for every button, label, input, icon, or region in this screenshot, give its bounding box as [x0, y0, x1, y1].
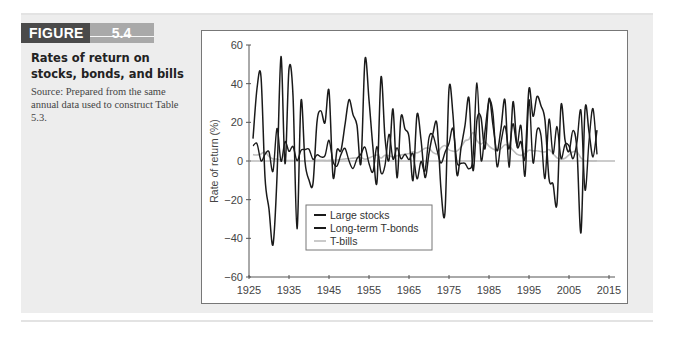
- y-tick-label: 60: [231, 39, 243, 51]
- y-tick-label: 40: [231, 78, 243, 90]
- legend-label: T-bills: [330, 235, 357, 247]
- x-tick-label: 1965: [397, 284, 421, 296]
- y-tick-label: −60: [224, 271, 243, 283]
- y-tick-label: −20: [224, 194, 243, 206]
- legend-label: Large stocks: [330, 209, 390, 221]
- x-tick-label: 1955: [357, 284, 381, 296]
- y-tick-label: −40: [224, 232, 243, 244]
- line-chart: −60−40−200204060192519351945195519651975…: [0, 0, 675, 341]
- y-tick-label: 20: [231, 116, 243, 128]
- x-tick-label: 1935: [277, 284, 301, 296]
- x-tick-label: 1945: [317, 284, 341, 296]
- y-axis-label: Rate of return (%): [208, 119, 220, 202]
- x-tick-label: 2015: [597, 284, 621, 296]
- legend-label: Long-term T-bonds: [330, 222, 419, 234]
- y-tick-label: 0: [237, 155, 243, 167]
- x-tick-label: 1975: [437, 284, 461, 296]
- x-tick-label: 1995: [517, 284, 541, 296]
- x-tick-label: 1925: [237, 284, 261, 296]
- x-tick-label: 2005: [557, 284, 581, 296]
- x-tick-label: 1985: [477, 284, 501, 296]
